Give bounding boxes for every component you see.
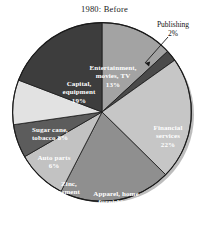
pie-chart: Entertainment, movies, TV 13% Financial … (12, 22, 198, 218)
slice-label-zinc-cement-line2: cement (48, 188, 90, 196)
slice-label-capital-equipment-line1: Capital, (50, 80, 108, 88)
slice-label-sugar-cane-tobacco-line2: tobacco 8% (20, 134, 80, 142)
pie-slices (12, 22, 192, 202)
slice-value-zinc-cement: 9% (48, 197, 90, 205)
slice-label-entertainment-line1: Entertainment, (80, 64, 146, 72)
slice-label-zinc-cement-line1: Zinc, (48, 180, 90, 188)
slice-label-financial-services-line2: services (140, 132, 196, 140)
slice-label-zinc-cement: Zinc, cement 9% (48, 180, 90, 205)
slice-label-capital-equipment: Capital, equipment 19% (50, 80, 108, 105)
slice-label-publishing: Publishing 2% (141, 20, 205, 38)
slice-label-apparel-line2: furnishings (82, 198, 150, 206)
slice-label-sugar-cane-tobacco-line1: Sugar cane, (20, 126, 80, 134)
slice-label-apparel: Apparel, home furnishings 20% (82, 190, 150, 215)
slice-label-publishing-line1: Publishing (141, 20, 205, 29)
slice-value-auto-parts: 6% (26, 162, 82, 170)
slice-value-financial-services: 22% (140, 141, 196, 149)
slice-label-auto-parts: Auto parts 6% (26, 154, 82, 171)
slice-label-auto-parts-line1: Auto parts (26, 154, 82, 162)
slice-label-sugar-cane-tobacco: Sugar cane, tobacco 8% (20, 126, 80, 142)
slice-label-apparel-line1: Apparel, home (82, 190, 150, 198)
pie-chart-figure: 1980: Before Entertainment, movies, TV 1… (0, 0, 209, 231)
slice-value-apparel: 20% (82, 207, 150, 215)
slice-label-financial-services-line1: Financial (140, 124, 196, 132)
slice-value-capital-equipment: 19% (50, 97, 108, 105)
slice-label-capital-equipment-line2: equipment (50, 88, 108, 96)
chart-title: 1980: Before (0, 4, 209, 14)
slice-label-financial-services: Financial services 22% (140, 124, 196, 149)
slice-value-publishing: 2% (141, 29, 205, 38)
